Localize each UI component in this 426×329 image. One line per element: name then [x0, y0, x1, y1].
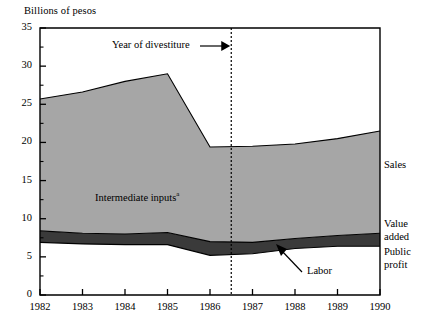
labor-label: Labor: [307, 265, 332, 276]
y-tick-label: 15: [6, 174, 32, 185]
value-added-label: Value added: [384, 218, 426, 243]
value-added-line1: Value: [384, 218, 408, 229]
y-tick-label: 5: [6, 250, 32, 261]
x-tick-label: 1984: [104, 301, 146, 312]
value-added-line2: added: [384, 231, 409, 242]
area-intermediate-inputs: [40, 74, 380, 243]
y-tick-label: 30: [6, 59, 32, 70]
intermediate-inputs-label: Intermediate inputsa: [95, 190, 179, 203]
public-profit-line2: profit: [384, 259, 407, 270]
public-profit-label: Public profit: [384, 246, 426, 271]
y-tick-label: 20: [6, 135, 32, 146]
y-tick-label: 10: [6, 212, 32, 223]
x-tick-label: 1982: [19, 301, 61, 312]
divestiture-label: Year of divestiture: [112, 39, 190, 50]
x-tick-label: 1983: [62, 301, 104, 312]
x-tick-label: 1990: [359, 301, 401, 312]
chart-figure: Billions of pesos 05101520253035 1982198…: [0, 0, 426, 329]
x-tick-label: 1986: [189, 301, 231, 312]
x-tick-label: 1985: [147, 301, 189, 312]
x-tick-label: 1988: [274, 301, 316, 312]
x-tick-label: 1987: [232, 301, 274, 312]
intermediate-inputs-footnote: a: [176, 190, 179, 198]
y-tick-label: 25: [6, 97, 32, 108]
sales-label: Sales: [384, 159, 406, 170]
chart-plot-area: [0, 0, 426, 329]
intermediate-inputs-text: Intermediate inputs: [95, 192, 176, 203]
public-profit-line1: Public: [384, 246, 411, 257]
x-tick-label: 1989: [317, 301, 359, 312]
y-tick-label: 35: [6, 21, 32, 32]
divestiture-arrow-head: [221, 41, 230, 51]
stacked-areas: [40, 74, 380, 295]
y-tick-label: 0: [6, 288, 32, 299]
